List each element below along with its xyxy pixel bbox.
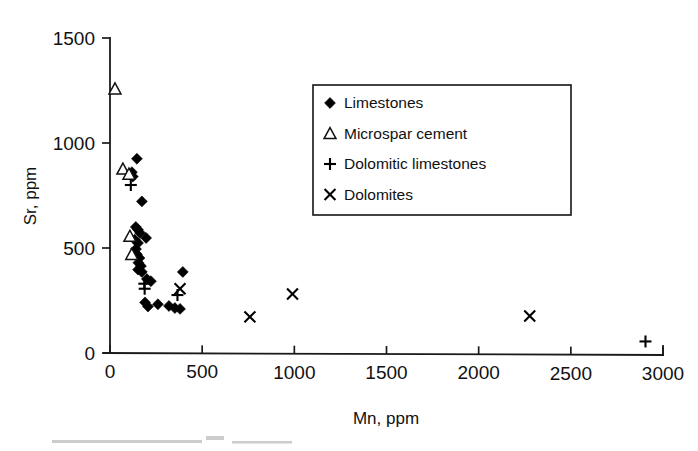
- x-tick-label: 2000: [458, 362, 500, 383]
- x-tick-label: 500: [186, 361, 218, 382]
- marker-cross: [524, 311, 535, 322]
- series-dolomites: [175, 283, 536, 322]
- x-tick-label: 3000: [642, 363, 684, 384]
- legend: LimestonesMicrospar cementDolomitic lime…: [313, 85, 571, 215]
- legend-item-label: Dolomitic limestones: [344, 155, 486, 172]
- y-tick-label: 500: [63, 238, 95, 259]
- y-tick-label: 1000: [53, 133, 95, 154]
- scatter-plot-figure: 050010001500200025003000 050010001500 Mn…: [0, 0, 698, 451]
- y-axis-title: Sr, ppm: [21, 167, 40, 226]
- scan-artifacts: [52, 436, 292, 444]
- marker-filled-diamond: [131, 153, 142, 164]
- y-axis-ticks: [102, 38, 110, 353]
- y-tick-label: 1500: [53, 28, 95, 49]
- marker-filled-diamond: [152, 299, 163, 310]
- x-tick-label: 2500: [550, 363, 592, 384]
- marker-plus: [640, 335, 652, 347]
- marker-cross: [175, 283, 186, 294]
- marker-cross: [244, 311, 255, 322]
- marker-filled-diamond: [136, 196, 147, 207]
- marker-cross: [287, 289, 298, 300]
- legend-item-label: Dolomites: [344, 186, 413, 203]
- chart-canvas: 050010001500200025003000 050010001500 Mn…: [0, 0, 698, 451]
- x-axis-title: Mn, ppm: [353, 409, 419, 428]
- marker-plus: [125, 179, 137, 191]
- legend-item-microspar-cement: Microspar cement: [324, 125, 468, 142]
- legend-item-dolomitic-limestones: Dolomitic limestones: [324, 155, 486, 172]
- x-axis-line: [104, 353, 663, 355]
- x-tick-label: 1500: [365, 362, 407, 383]
- x-tick-label: 0: [105, 361, 116, 382]
- legend-item-label: Limestones: [344, 94, 424, 111]
- x-tick-label: 1000: [273, 362, 315, 383]
- y-tick-label: 0: [84, 343, 95, 364]
- y-axis-tick-labels: 050010001500: [53, 28, 95, 364]
- x-axis-tick-labels: 050010001500200025003000: [105, 361, 684, 384]
- marker-filled-diamond: [177, 266, 188, 277]
- legend-item-label: Microspar cement: [344, 125, 468, 142]
